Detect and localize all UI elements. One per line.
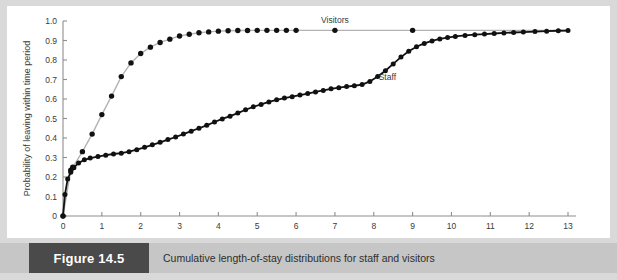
data-point-visitors	[332, 28, 337, 33]
series-line-staff	[63, 31, 568, 216]
data-point-staff	[220, 116, 225, 121]
data-point-staff	[544, 29, 549, 34]
y-tick-label: 0.5	[45, 114, 57, 124]
data-point-staff	[422, 41, 427, 46]
data-point-staff	[472, 32, 477, 37]
series-line-visitors	[63, 30, 568, 216]
data-point-staff	[165, 137, 170, 142]
x-tick-label: 4	[216, 221, 221, 231]
data-point-visitors	[128, 60, 133, 65]
data-point-visitors	[284, 28, 289, 33]
data-point-visitors	[148, 44, 153, 49]
data-point-staff	[196, 126, 201, 131]
data-point-staff	[360, 82, 365, 87]
x-tick-label: 9	[410, 221, 415, 231]
data-point-staff	[511, 30, 516, 35]
x-tick-label: 2	[138, 221, 143, 231]
data-point-staff	[111, 151, 116, 156]
data-point-staff	[521, 30, 526, 35]
data-point-staff	[68, 170, 73, 175]
data-point-staff	[336, 85, 341, 90]
x-tick-label: 1	[99, 221, 104, 231]
data-point-staff	[235, 111, 240, 116]
data-point-staff	[501, 30, 506, 35]
figure-container: 01234567891011121300.10.20.30.40.50.60.7…	[0, 0, 617, 280]
series-annotation-staff: Staff	[379, 72, 397, 82]
x-tick-label: 6	[294, 221, 299, 231]
data-point-staff	[61, 214, 66, 219]
data-point-staff	[313, 89, 318, 94]
y-tick-label: 0.4	[45, 133, 57, 143]
y-tick-label: 0.8	[45, 55, 57, 65]
data-point-staff	[329, 86, 334, 91]
y-tick-label: 0.6	[45, 94, 57, 104]
data-point-staff	[532, 29, 537, 34]
data-point-visitors	[167, 36, 172, 41]
figure-caption: Cumulative length-of-stay distributions …	[163, 243, 435, 273]
data-point-staff	[566, 28, 571, 33]
data-point-staff	[173, 135, 178, 140]
x-tick-label: 12	[524, 221, 534, 231]
data-point-staff	[243, 107, 248, 112]
y-tick-label: 0.1	[45, 192, 57, 202]
data-point-visitors	[235, 28, 240, 33]
data-point-staff	[62, 192, 67, 197]
data-point-staff	[398, 55, 403, 60]
series-annotation-visitors: Visitors	[321, 15, 349, 25]
data-point-visitors	[225, 28, 230, 33]
figure-number-box: Figure 14.5	[29, 243, 149, 273]
data-point-staff	[181, 132, 186, 137]
x-tick-label: 8	[371, 221, 376, 231]
data-point-visitors	[138, 51, 143, 56]
data-point-staff	[150, 142, 155, 147]
data-point-staff	[297, 93, 302, 98]
data-point-staff	[251, 104, 256, 109]
data-point-staff	[414, 44, 419, 49]
data-point-staff	[88, 156, 93, 161]
data-point-staff	[266, 99, 271, 104]
data-point-staff	[142, 145, 147, 150]
data-point-visitors	[216, 28, 221, 33]
data-point-staff	[103, 153, 108, 158]
x-tick-label: 11	[486, 221, 495, 231]
data-point-staff	[290, 94, 295, 99]
data-point-staff	[95, 154, 100, 159]
data-point-staff	[367, 79, 372, 84]
x-tick-label: 10	[447, 221, 457, 231]
x-tick-label: 0	[61, 221, 66, 231]
data-point-staff	[391, 61, 396, 66]
data-point-staff	[556, 28, 561, 33]
y-tick-label: 1.0	[45, 16, 57, 26]
data-point-staff	[305, 91, 310, 96]
data-point-staff	[158, 140, 163, 145]
data-point-visitors	[109, 93, 114, 98]
x-tick-label: 3	[177, 221, 182, 231]
data-point-staff	[76, 160, 81, 165]
data-point-visitors	[206, 29, 211, 34]
data-point-staff	[453, 34, 458, 39]
data-point-staff	[127, 149, 132, 154]
data-point-staff	[65, 176, 70, 181]
y-tick-label: 0	[52, 211, 57, 221]
data-point-visitors	[119, 74, 124, 79]
data-point-staff	[463, 33, 468, 38]
data-point-staff	[282, 96, 287, 101]
y-tick-label: 0.3	[45, 153, 57, 163]
y-tick-label: 0.2	[45, 172, 57, 182]
data-point-visitors	[255, 28, 260, 33]
data-point-staff	[406, 49, 411, 54]
x-tick-label: 7	[333, 221, 338, 231]
data-point-visitors	[293, 28, 298, 33]
data-point-staff	[228, 114, 233, 119]
data-point-staff	[274, 97, 279, 102]
data-point-staff	[189, 129, 194, 134]
data-point-visitors	[177, 33, 182, 38]
y-tick-label: 0.7	[45, 75, 57, 85]
data-point-visitors	[89, 131, 94, 136]
data-point-visitors	[99, 112, 104, 117]
data-point-staff	[212, 120, 217, 125]
data-point-visitors	[80, 149, 85, 154]
data-point-visitors	[157, 40, 162, 45]
figure-number-label: Figure 14.5	[54, 251, 125, 266]
data-point-visitors	[274, 28, 279, 33]
